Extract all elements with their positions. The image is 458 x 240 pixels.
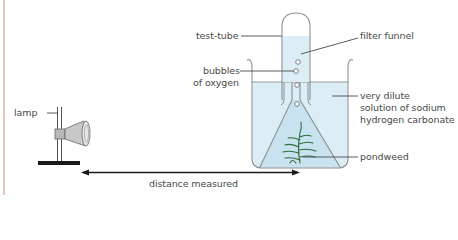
label-solution-line3: hydrogen carbonate	[360, 114, 455, 126]
label-test-tube: test-tube	[196, 30, 238, 42]
distance-arrow	[81, 170, 300, 176]
label-bubbles-line1: bubbles	[203, 65, 240, 77]
label-lamp: lamp	[14, 107, 37, 119]
label-filter-funnel: filter funnel	[360, 30, 414, 42]
label-bubbles-line2: of oxygen	[193, 77, 239, 89]
label-distance-measured: distance measured	[149, 178, 238, 190]
label-solution-line2: solution of sodium	[360, 102, 446, 114]
label-pondweed: pondweed	[360, 151, 409, 163]
lamp	[38, 107, 90, 165]
label-solution-line1: very dilute	[360, 90, 410, 102]
